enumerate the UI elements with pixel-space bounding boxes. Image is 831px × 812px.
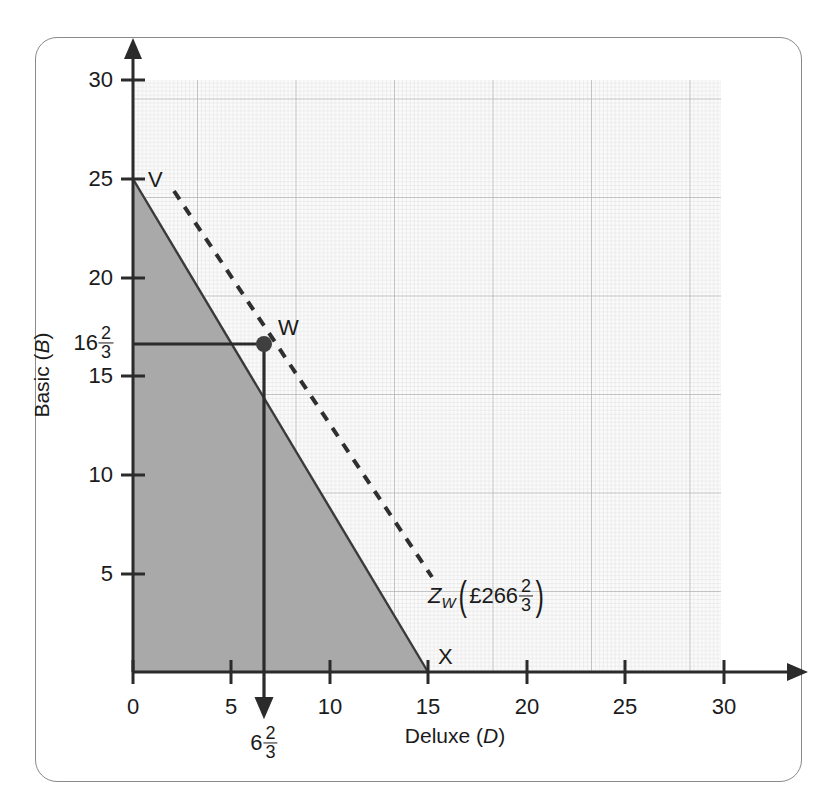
y-tick-20: 20 — [89, 265, 113, 291]
x-tick-0: 0 — [127, 694, 139, 720]
x-tick-20: 20 — [515, 694, 539, 720]
objective-denominator: 3 — [519, 596, 533, 615]
x-axis-title: Deluxe (D) — [405, 724, 505, 748]
objective-symbol: Z — [428, 583, 441, 608]
x-tick-6-fraction: 23 — [264, 725, 278, 762]
figure-page: 30 25 20 1623 15 10 5 0 5 10 15 20 25 30… — [0, 0, 831, 812]
y-axis-title-text: Basic ( — [30, 353, 53, 417]
x-axis-title-tail: ) — [498, 724, 505, 747]
y-axis-title: Basic (B) — [30, 332, 54, 417]
left-paren: ( — [458, 586, 466, 608]
objective-whole: 266 — [481, 583, 518, 608]
x-tick-6-whole: 6 — [250, 730, 262, 755]
y-tick-16-two-thirds: 1623 — [73, 325, 113, 362]
point-label-V: V — [148, 167, 163, 193]
objective-value-annotation: ZW(£26623) — [428, 578, 547, 615]
y-tick-10: 10 — [89, 462, 113, 488]
x-tick-25: 25 — [613, 694, 637, 720]
optimum-point-W-marker — [256, 336, 272, 352]
y-tick-16-denominator: 3 — [99, 343, 113, 362]
objective-currency: £ — [469, 583, 481, 608]
point-label-W: W — [278, 315, 299, 341]
x-tick-6-denominator: 3 — [264, 743, 278, 762]
y-tick-16-numerator: 2 — [99, 325, 113, 343]
x-tick-10: 10 — [318, 694, 342, 720]
y-tick-30: 30 — [89, 67, 113, 93]
y-tick-16-whole: 16 — [73, 330, 97, 355]
objective-fraction: 23 — [519, 578, 533, 615]
point-label-X: X — [438, 644, 453, 670]
y-axis-title-tail: ) — [30, 332, 53, 339]
y-tick-25: 25 — [89, 166, 113, 192]
x-tick-6-numerator: 2 — [264, 725, 278, 743]
x-axis-title-text: Deluxe ( — [405, 724, 483, 747]
x-axis-title-variable: D — [483, 724, 498, 747]
x-tick-6-two-thirds: 623 — [250, 725, 277, 762]
x-tick-5: 5 — [225, 694, 237, 720]
right-paren: ) — [536, 586, 544, 608]
y-axis-title-variable: B — [30, 339, 53, 353]
objective-subscript: W — [441, 594, 455, 611]
x-tick-30: 30 — [712, 694, 736, 720]
graph-canvas — [0, 0, 831, 812]
y-tick-5: 5 — [101, 561, 113, 587]
y-tick-15: 15 — [89, 363, 113, 389]
objective-numerator: 2 — [519, 578, 533, 596]
x-tick-15: 15 — [416, 694, 440, 720]
y-tick-16-fraction: 23 — [99, 325, 113, 362]
